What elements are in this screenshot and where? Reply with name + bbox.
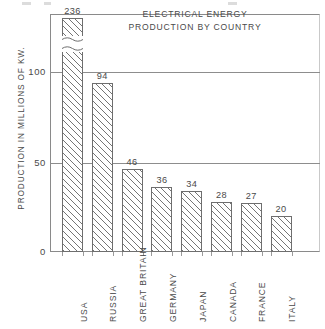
bar-russia [92, 83, 113, 252]
x-label-germany: GERMANY [167, 273, 180, 322]
x-tick-mark [113, 252, 114, 256]
x-label-japan: JAPAN [197, 291, 210, 322]
plot-area: 23694463634282720 [50, 14, 320, 252]
bar-value-label: 236 [55, 6, 90, 16]
top-crop-artifact [228, 2, 237, 5]
bar-italy [271, 216, 292, 252]
x-tick-mark [211, 252, 212, 256]
x-label-russia: RUSSIA [107, 285, 120, 322]
x-tick-mark [181, 252, 182, 256]
bar-japan [181, 191, 202, 252]
bar-chart: PRODUCTION IN MILLIONS OF KW. 100 50 0 2… [0, 0, 325, 329]
y-axis-ticks: 100 50 0 [18, 0, 46, 329]
x-tick-mark [241, 252, 242, 256]
x-tick-mark [151, 252, 152, 256]
bar-great-britain [122, 169, 143, 252]
x-label-france: FRANCE [256, 282, 269, 322]
x-tick-mark [292, 252, 293, 256]
bar-canada [211, 202, 232, 252]
bar-value-label: 20 [264, 204, 299, 214]
bar-usa-lower-segment [62, 49, 83, 252]
bar-value-label: 34 [174, 179, 209, 189]
x-label-great-britain: GREAT BRITAIN [137, 246, 150, 322]
x-tick-mark [92, 252, 93, 256]
x-label-italy: ITALY [286, 295, 299, 322]
gridline-50 [50, 163, 320, 164]
y-tick-label-0: 0 [20, 247, 46, 257]
x-tick-mark [122, 252, 123, 256]
bar-value-label: 27 [234, 191, 269, 201]
chart-title-line-2: PRODUCTION BY COUNTRY [120, 21, 270, 34]
x-tick-mark [172, 252, 173, 256]
x-tick-mark [83, 252, 84, 256]
y-tick-label-100: 100 [20, 67, 46, 77]
bar-france [241, 203, 262, 252]
bar-value-label: 46 [115, 157, 150, 167]
bar-value-label: 94 [85, 71, 120, 81]
x-tick-mark [202, 252, 203, 256]
x-tick-mark [232, 252, 233, 256]
y-tick-label-50: 50 [20, 158, 46, 168]
x-label-canada: CANADA [227, 281, 240, 322]
x-label-usa: USA [78, 302, 91, 322]
x-tick-mark [62, 252, 63, 256]
x-tick-mark [262, 252, 263, 256]
chart-title: ELECTRICAL ENERGY PRODUCTION BY COUNTRY [120, 8, 270, 33]
chart-title-line-1: ELECTRICAL ENERGY [120, 8, 270, 21]
bar-germany [151, 187, 172, 252]
x-tick-mark [271, 252, 272, 256]
bar-usa-upper-segment [62, 18, 83, 40]
